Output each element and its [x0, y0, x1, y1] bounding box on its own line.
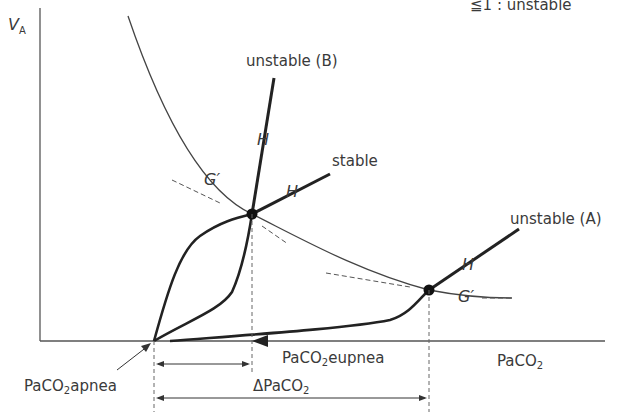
x-axis-label: PaCO2 — [497, 352, 543, 371]
return-arrowhead — [252, 335, 268, 347]
top-right-partial-text: ≦1 : unstable — [470, 0, 572, 14]
label-paco2-eupnea: PaCO2eupnea — [282, 349, 384, 368]
label-g-prime-lower: G′ — [458, 287, 474, 306]
ventilatory-stability-diagram: ≦1 : unstable VA unstable (B) H stable H… — [0, 0, 634, 417]
tangent-g-upper-right — [262, 226, 288, 244]
label-h-stable: H — [286, 182, 298, 201]
arrowhead — [156, 361, 164, 367]
apnea-pointer-arrow — [117, 346, 148, 370]
label-h-a: H — [462, 255, 474, 274]
label-unstable-a: unstable (A) — [510, 210, 602, 228]
arrowhead — [419, 395, 427, 401]
y-axis-label: VA — [8, 15, 26, 36]
arrowhead — [242, 361, 250, 367]
trajectory-unstable-a-loop — [170, 290, 429, 341]
label-h-b: H — [257, 130, 269, 149]
label-paco2-apnea: PaCO2apnea — [24, 377, 117, 396]
label-stable: stable — [332, 152, 378, 170]
arrowhead — [156, 395, 164, 401]
label-delta-paco2: ΔPaCO2 — [253, 377, 309, 396]
label-unstable-b: unstable (B) — [246, 52, 338, 70]
label-g-prime-upper: G′ — [204, 170, 220, 189]
